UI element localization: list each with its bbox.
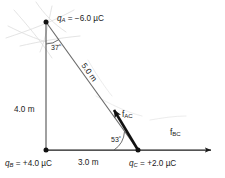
charge-qb-equals: = xyxy=(16,159,21,168)
charge-qb-unit: µC xyxy=(41,159,52,168)
vertex-point-a xyxy=(44,20,49,25)
charge-qa-unit: µC xyxy=(93,14,104,23)
angle-37-value: 37 xyxy=(51,44,59,51)
charge-qc-equals: = xyxy=(140,159,145,168)
charge-qc-value: +2.0 xyxy=(147,159,163,168)
charge-qb-value: +4.0 xyxy=(23,159,39,168)
angle-label-53: 53° xyxy=(111,136,121,143)
force-label-f-bc: fBC xyxy=(170,128,181,137)
distance-label-bc: 3.0 m xyxy=(78,159,98,167)
charge-qc-subscript: C xyxy=(134,162,138,168)
distance-label-ab: 4.0 m xyxy=(14,106,34,114)
angle-53-degree-symbol: ° xyxy=(119,135,121,141)
charge-qc-unit: µC xyxy=(166,159,177,168)
vertex-point-b xyxy=(44,148,49,153)
angle-label-37: 37° xyxy=(51,44,61,51)
charge-qb-subscript: B xyxy=(10,162,14,168)
angle-37-degree-symbol: ° xyxy=(59,43,61,49)
charge-label-qb: qB = +4.0 µC xyxy=(5,160,52,169)
charge-qa-value: −6.0 xyxy=(75,14,91,23)
charge-qa-equals: = xyxy=(68,14,73,23)
physics-diagram-canvas: qA = −6.0 µC qB = +4.0 µC qC = +2.0 µC 4… xyxy=(0,0,225,178)
force-f-ac-subscript: AC xyxy=(124,113,132,119)
geometry-layer xyxy=(0,0,225,178)
charge-label-qa: qA = −6.0 µC xyxy=(57,15,104,24)
charge-label-qc: qC = +2.0 µC xyxy=(129,160,176,169)
force-f-bc-subscript: BC xyxy=(172,131,180,137)
force-label-f-ac: fAC xyxy=(122,110,133,119)
vertex-point-c xyxy=(136,148,141,153)
charge-qa-subscript: A xyxy=(62,17,66,23)
side-ac-hypotenuse xyxy=(46,22,138,150)
angle-53-value: 53 xyxy=(111,136,119,143)
